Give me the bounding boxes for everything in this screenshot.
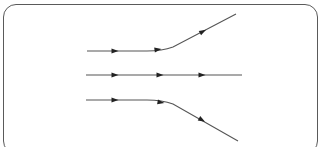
bottom-line xyxy=(86,100,238,141)
arrowhead-icon xyxy=(157,73,164,78)
top-line xyxy=(87,14,236,51)
arrowhead-icon xyxy=(199,73,206,78)
flow-lines xyxy=(86,14,242,141)
arrowhead-icon xyxy=(157,99,165,105)
arrowhead-icon xyxy=(112,49,119,54)
arrowhead-icon xyxy=(112,73,119,78)
arrowhead-icon xyxy=(112,98,119,103)
flow-diagram xyxy=(0,0,322,147)
arrowhead-icon xyxy=(199,28,208,36)
